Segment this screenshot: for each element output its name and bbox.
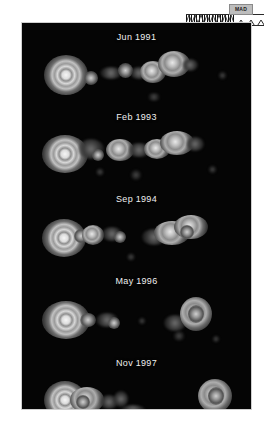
sky-region xyxy=(22,207,251,271)
epoch-panel: Feb 1993 xyxy=(22,103,251,181)
sky-region xyxy=(22,289,251,353)
sky-region xyxy=(22,371,251,410)
epoch-label: Sep 1994 xyxy=(22,194,251,204)
epoch-label: May 1996 xyxy=(22,276,251,286)
sky-region xyxy=(22,45,251,109)
epoch-panel: Sep 1994 xyxy=(22,185,251,263)
epoch-panel: Nov 1997 xyxy=(22,349,251,410)
image-canvas: Jun 1991 Feb 1993 xyxy=(21,22,252,410)
epoch-panel: May 1996 xyxy=(22,267,251,345)
sky-region xyxy=(22,125,251,189)
radio-epoch-figure: MAD Jun 1991 xyxy=(0,0,264,435)
epoch-label: Jun 1991 xyxy=(22,32,251,42)
epoch-label: Feb 1993 xyxy=(22,112,251,122)
epoch-label: Nov 1997 xyxy=(22,358,251,368)
epoch-panel: Jun 1991 xyxy=(22,23,251,101)
scale-marker-bar: MAD xyxy=(0,0,264,24)
mad-label: MAD xyxy=(229,4,253,15)
